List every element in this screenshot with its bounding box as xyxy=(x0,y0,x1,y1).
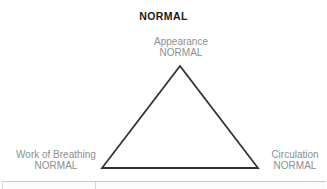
label-circulation: Circulation NORMAL xyxy=(271,149,318,171)
label-work-of-breathing: Work of Breathing NORMAL xyxy=(16,149,96,171)
label-circulation-line2: NORMAL xyxy=(271,160,318,171)
triangle-outline xyxy=(102,66,258,168)
label-appearance: Appearance NORMAL xyxy=(154,36,208,58)
label-work-of-breathing-line1: Work of Breathing xyxy=(16,149,96,160)
label-work-of-breathing-line2: NORMAL xyxy=(16,160,96,171)
diagram-page: NORMAL Appearance NORMAL Work of Breathi… xyxy=(0,0,327,189)
table-top-edge-fragment xyxy=(2,181,326,189)
label-circulation-line1: Circulation xyxy=(271,149,318,160)
label-appearance-line1: Appearance xyxy=(154,36,208,47)
table-column-divider xyxy=(95,182,96,189)
label-appearance-line2: NORMAL xyxy=(154,47,208,58)
